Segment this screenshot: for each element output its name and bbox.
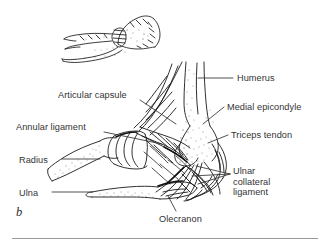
figure-marker: b <box>16 205 22 220</box>
label-humerus: Humerus <box>237 73 275 84</box>
bottom-divider <box>12 238 318 239</box>
label-ulna: Ulna <box>19 188 38 199</box>
label-medial-epicondyle: Medial epicondyle <box>227 102 301 113</box>
label-annular-ligament: Annular ligament <box>16 122 86 133</box>
label-triceps-tendon: Triceps tendon <box>231 130 292 141</box>
label-articular-capsule: Articular capsule <box>58 90 127 101</box>
label-olecranon: Olecranon <box>159 214 202 225</box>
label-radius: Radius <box>19 155 48 166</box>
label-ulnar-collateral-ligament: Ulnar collateral ligament <box>233 166 270 198</box>
